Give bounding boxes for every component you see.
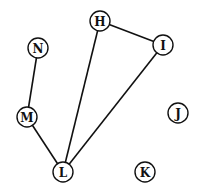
node-label: J: [174, 107, 181, 121]
node-m: M: [17, 107, 37, 127]
node-label: M: [20, 111, 33, 125]
node-i: I: [153, 35, 173, 55]
node-label: N: [33, 42, 44, 56]
node-label: L: [59, 166, 68, 180]
node-k: K: [135, 162, 155, 182]
node-label: K: [140, 166, 151, 180]
node-n: N: [28, 38, 48, 58]
node-label: H: [94, 15, 105, 29]
nodes-layer: HINMJLK: [17, 11, 188, 182]
node-l: L: [53, 162, 73, 182]
node-label: I: [160, 39, 166, 53]
node-h: H: [90, 11, 110, 31]
graph-diagram: HINMJLK: [0, 0, 200, 192]
node-j: J: [168, 103, 188, 123]
graph-canvas: HINMJLK: [0, 0, 200, 192]
